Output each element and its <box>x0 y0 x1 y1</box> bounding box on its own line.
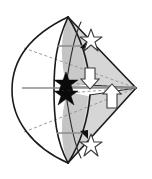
geometric-diagram <box>0 0 152 179</box>
